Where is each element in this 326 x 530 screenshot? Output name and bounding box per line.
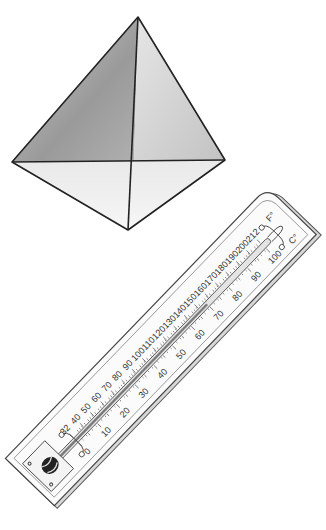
- fahrenheit-labels: 32 40 50 60 70 80 90 100 110 120 130 140…: [58, 227, 261, 437]
- illustration: 32 40 50 60 70 80 90 100 110 120 130 140…: [0, 0, 326, 530]
- thermometer: 32 40 50 60 70 80 90 100 110 120 130 140…: [5, 185, 321, 508]
- pyramid: [12, 17, 225, 230]
